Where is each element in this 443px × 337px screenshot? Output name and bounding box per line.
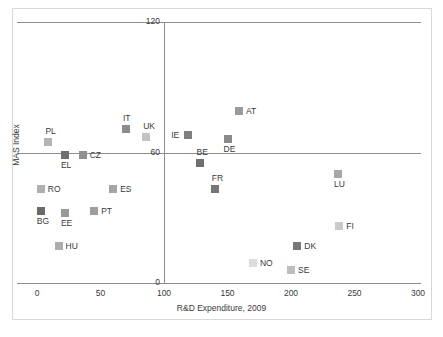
gridline-y-60 xyxy=(17,153,421,154)
data-label-de: DE xyxy=(224,144,236,154)
data-point-fi[interactable] xyxy=(335,222,343,230)
data-point-no[interactable] xyxy=(249,259,257,267)
data-point-pt[interactable] xyxy=(90,207,98,215)
data-label-be: BE xyxy=(197,147,208,157)
data-label-hu: HU xyxy=(66,241,78,251)
data-label-bg: BG xyxy=(37,216,49,226)
data-point-hu[interactable] xyxy=(55,242,63,250)
x-tick-label-50: 50 xyxy=(81,288,121,298)
x-tick-label-200: 200 xyxy=(271,288,311,298)
data-point-dk[interactable] xyxy=(293,242,301,250)
x-tick-label-250: 250 xyxy=(335,288,375,298)
data-point-se[interactable] xyxy=(287,266,295,274)
data-point-ie[interactable] xyxy=(184,131,192,139)
data-label-uk: UK xyxy=(143,121,155,131)
data-point-be[interactable] xyxy=(196,159,204,167)
data-label-cz: CZ xyxy=(90,150,101,160)
gridline-y-0 xyxy=(17,283,421,284)
data-label-ee: EE xyxy=(61,218,72,228)
data-point-cz[interactable] xyxy=(79,151,87,159)
data-point-ro[interactable] xyxy=(37,185,45,193)
data-label-se: SE xyxy=(298,265,309,275)
data-point-el[interactable] xyxy=(61,151,69,159)
gridline-y-120 xyxy=(17,22,421,23)
data-point-at[interactable] xyxy=(235,107,243,115)
chart-frame: 060120050100150200250300PLITUKELCZATIEDE… xyxy=(0,0,443,337)
data-label-dk: DK xyxy=(304,241,316,251)
x-tick-label-150: 150 xyxy=(208,288,248,298)
data-point-lu[interactable] xyxy=(334,170,342,178)
y-tick-label-120: 120 xyxy=(136,16,160,26)
data-label-no: NO xyxy=(260,258,273,268)
data-label-es: ES xyxy=(120,184,131,194)
x-axis-title: R&D Expenditure, 2009 xyxy=(0,303,443,313)
data-label-pl: PL xyxy=(45,126,55,136)
data-label-fi: FI xyxy=(346,221,354,231)
data-label-pt: PT xyxy=(101,206,112,216)
data-point-es[interactable] xyxy=(109,185,117,193)
x-tick-label-100: 100 xyxy=(144,288,184,298)
y-tick-label-0: 0 xyxy=(136,277,160,287)
data-label-at: AT xyxy=(246,106,256,116)
data-label-fr: FR xyxy=(212,173,223,183)
scatter-plot-area: 060120050100150200250300PLITUKELCZATIEDE… xyxy=(0,0,443,337)
data-label-lu: LU xyxy=(334,179,345,189)
data-label-el: EL xyxy=(61,160,71,170)
data-label-ie: IE xyxy=(171,130,179,140)
y-axis-title: MAS Index xyxy=(11,115,21,175)
data-point-de[interactable] xyxy=(224,135,232,143)
data-point-ee[interactable] xyxy=(61,209,69,217)
data-label-it: IT xyxy=(123,113,131,123)
data-point-pl[interactable] xyxy=(44,138,52,146)
x-tick-label-300: 300 xyxy=(398,288,438,298)
y-axis-line xyxy=(164,22,165,283)
data-point-it[interactable] xyxy=(122,125,130,133)
data-label-ro: RO xyxy=(48,184,61,194)
data-point-fr[interactable] xyxy=(211,185,219,193)
x-tick-label-0: 0 xyxy=(17,288,57,298)
data-point-bg[interactable] xyxy=(37,207,45,215)
data-point-uk[interactable] xyxy=(142,133,150,141)
y-tick-label-60: 60 xyxy=(136,147,160,157)
